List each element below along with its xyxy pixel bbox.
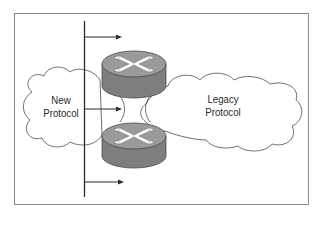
router-bottom xyxy=(102,123,166,168)
arrow-bottom xyxy=(84,180,124,185)
legacy-protocol-label: Legacy Protocol xyxy=(201,93,245,119)
new-protocol-label: New Protocol xyxy=(39,94,83,120)
new-protocol-label-line2: Protocol xyxy=(39,107,83,120)
new-protocol-label-line1: New xyxy=(39,94,83,107)
arrow-top xyxy=(84,35,122,40)
legacy-protocol-label-line1: Legacy xyxy=(201,93,245,106)
legacy-protocol-label-line2: Protocol xyxy=(201,106,245,119)
router-top xyxy=(102,51,166,98)
